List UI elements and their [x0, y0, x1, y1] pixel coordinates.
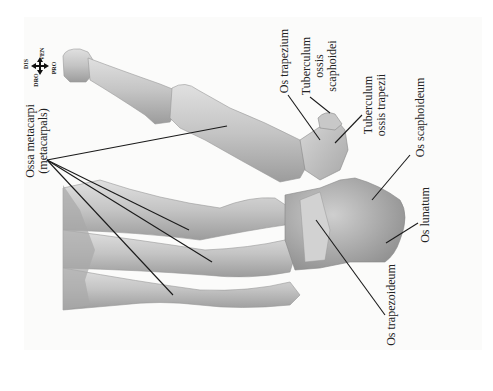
leader-tuberculum-scaphoidei — [310, 97, 330, 113]
label-os-scaphoideum: Os scaphoideum — [414, 75, 427, 160]
label-os-trapezoideum: Os trapezoideum — [385, 263, 398, 347]
label-tuberculum-ossis-scaphoidei: Tuberculum ossis scaphoidei — [300, 36, 339, 96]
leader-os-scaphoideum — [372, 155, 410, 200]
label-os-lunatum: Os lunatum — [419, 185, 432, 245]
leader-metacarpal-1 — [47, 126, 227, 160]
orientation-compass: DIS DRO VEN PRO — [23, 47, 57, 87]
compass-ven: VEN — [39, 47, 45, 60]
label-ossa-metacarpi: Ossa metacarpi (metacarpals) — [24, 86, 50, 196]
label-tuberculum-ossis-trapezii: Tuberculum ossis trapezii — [362, 70, 388, 140]
compass-dro: DRO — [33, 73, 39, 87]
thumb-bones — [63, 49, 310, 182]
label-os-trapezium: Os trapezium — [278, 26, 291, 96]
metacarpal-bones — [63, 180, 300, 310]
compass-pro: PRO — [51, 61, 57, 74]
compass-dis: DIS — [23, 58, 29, 69]
